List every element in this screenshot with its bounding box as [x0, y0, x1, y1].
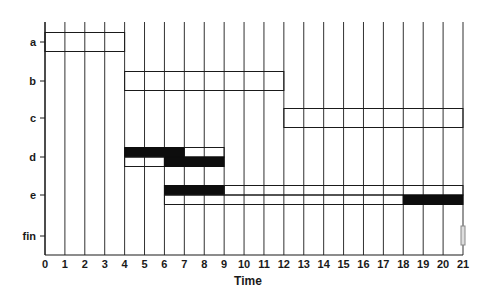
x-tick-label: 21	[457, 258, 469, 270]
x-tick-label: 0	[42, 258, 48, 270]
x-tick-label: 1	[62, 258, 68, 270]
task-bar-c	[284, 109, 463, 128]
x-tick-label: 9	[221, 258, 227, 270]
axes	[45, 22, 463, 255]
x-tick-label: 20	[437, 258, 449, 270]
y-tick-label: fin	[23, 230, 37, 242]
x-tick-label: 17	[377, 258, 389, 270]
x-tick-label: 14	[318, 258, 331, 270]
x-tick-label: 18	[397, 258, 409, 270]
y-tick-label: a	[30, 36, 37, 48]
y-tick-label: e	[30, 189, 36, 201]
y-tick-label: b	[29, 75, 36, 87]
y-tick-label: c	[30, 112, 36, 124]
y-axis-labels: abcdefin	[23, 36, 45, 242]
task-bar-e-filled	[403, 195, 463, 205]
x-tick-label: 2	[82, 258, 88, 270]
x-tick-label: 5	[141, 258, 147, 270]
x-tick-label: 12	[278, 258, 290, 270]
x-tick-label: 8	[201, 258, 207, 270]
task-bar-d-filled	[125, 148, 185, 158]
task-bar-d-filled	[164, 157, 224, 167]
x-tick-label: 3	[102, 258, 108, 270]
x-tick-label: 7	[181, 258, 187, 270]
x-axis-labels: 0123456789101112131415161718192021	[42, 258, 469, 270]
task-bars	[45, 33, 465, 246]
vertical-gridlines	[45, 22, 463, 255]
x-tick-label: 4	[122, 258, 129, 270]
x-tick-label: 15	[337, 258, 349, 270]
x-tick-label: 11	[258, 258, 270, 270]
x-tick-label: 13	[298, 258, 310, 270]
x-tick-label: 10	[238, 258, 250, 270]
y-tick-label: d	[29, 151, 36, 163]
x-tick-label: 6	[161, 258, 167, 270]
gantt-chart: abcdefin 0123456789101112131415161718192…	[0, 0, 495, 306]
x-axis-title: Time	[234, 274, 262, 288]
x-tick-label: 19	[417, 258, 429, 270]
task-bar-e-filled	[164, 186, 224, 196]
fin-marker	[461, 226, 465, 245]
x-tick-label: 16	[357, 258, 369, 270]
